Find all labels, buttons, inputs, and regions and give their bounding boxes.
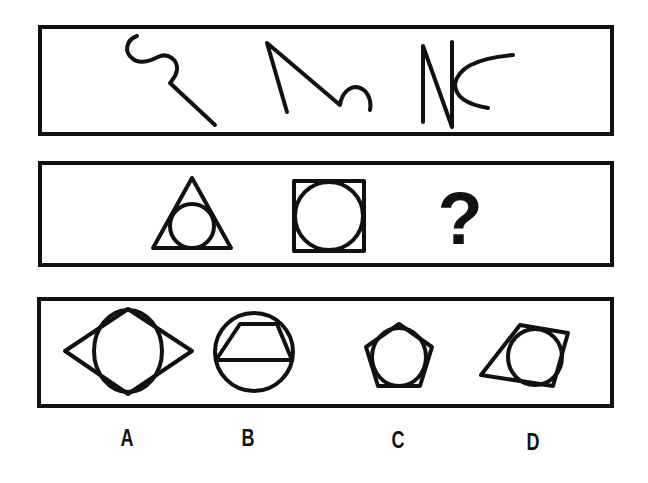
option-a-figure[interactable]: [65, 309, 192, 394]
unknown-question-mark: ?: [437, 177, 482, 260]
puzzle-figure: ? A B C D: [0, 0, 648, 483]
triangle-icon: [153, 178, 231, 248]
option-c-figure[interactable]: [366, 324, 432, 386]
zigzag-arc-icon: [267, 43, 370, 112]
row1-frame: [40, 27, 612, 134]
option-a-label[interactable]: A: [121, 425, 134, 451]
option-d-figure[interactable]: [481, 325, 568, 386]
inscribed-circle-icon: [295, 182, 363, 250]
inscribed-circle-icon: [170, 204, 214, 248]
circle-icon: [508, 329, 562, 385]
trapezoid-icon: [216, 324, 292, 360]
option-b-figure[interactable]: [215, 313, 293, 391]
circle-icon: [372, 328, 426, 386]
circle-icon: [94, 310, 162, 392]
option-c-label[interactable]: C: [392, 427, 405, 453]
n-shape-arc-icon: [455, 55, 513, 108]
option-b-label[interactable]: B: [242, 425, 255, 451]
option-d-label[interactable]: D: [527, 429, 540, 455]
n-shape-curve-icon: [423, 42, 452, 127]
hook-curve-line-icon: [127, 36, 215, 125]
rhombus-icon: [65, 309, 192, 394]
pentagon-icon: [366, 324, 432, 386]
